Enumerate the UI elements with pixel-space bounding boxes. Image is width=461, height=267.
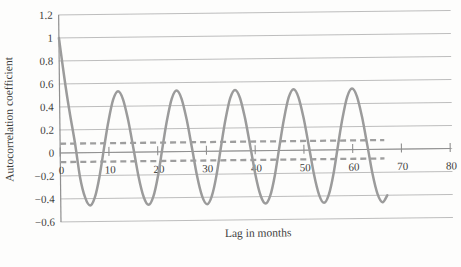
y-tick-label: 1 [47, 32, 53, 44]
x-tick-label: 60 [348, 161, 360, 173]
gridline [60, 194, 452, 198]
plot-area: 1.210.80.60.40.20−0.2−0.4−0.601020304050… [33, 4, 458, 228]
y-axis-title: Autocorrelation coefficient [2, 56, 15, 182]
x-tick-label: 10 [105, 163, 117, 175]
y-tick-label: 0.8 [39, 55, 53, 67]
y-tick-label: 0.2 [40, 124, 54, 136]
gridline [59, 102, 451, 106]
y-tick-label: 0.4 [40, 101, 54, 113]
x-tick-label: 80 [446, 159, 458, 171]
acf-chart: 1.210.80.60.40.20−0.2−0.4−0.601020304050… [0, 0, 461, 267]
x-tick-label: 30 [202, 162, 214, 174]
acf-figure: 1.210.80.60.40.20−0.2−0.4−0.601020304050… [0, 0, 461, 267]
y-tick-label: 0 [49, 147, 55, 159]
x-axis-title: Lag in months [225, 226, 292, 240]
x-tick-label: 50 [300, 161, 312, 173]
y-tick-label: 0.6 [40, 78, 54, 90]
y-tick-label: 1.2 [39, 9, 53, 21]
gridline [59, 79, 451, 83]
gridline [58, 10, 450, 14]
gridline [60, 217, 452, 221]
y-tick-label: −0.4 [35, 193, 56, 205]
x-tick-label: 70 [397, 160, 409, 172]
y-tick-label: −0.6 [35, 216, 56, 228]
x-tick-label: 0 [59, 164, 65, 176]
y-tick-label: −0.2 [34, 170, 54, 182]
gridline [59, 125, 451, 129]
gridline [58, 33, 450, 37]
gridline [59, 56, 451, 60]
